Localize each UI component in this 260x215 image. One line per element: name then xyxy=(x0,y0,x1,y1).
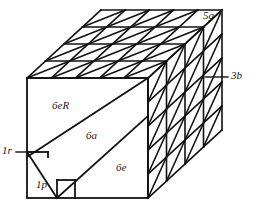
label-5g: 5g xyxy=(203,10,214,21)
diagram-canvas: 5g 3b 1r 1p 6eR 6a 6e xyxy=(0,0,260,215)
label-6eR: 6eR xyxy=(52,100,69,111)
right-face-mesh xyxy=(148,10,222,198)
label-3b: 3b xyxy=(231,70,242,81)
label-6e: 6e xyxy=(116,162,126,173)
front-face-corner-triangle xyxy=(27,152,75,198)
top-face-mesh xyxy=(27,10,222,78)
label-1p: 1p xyxy=(36,179,47,190)
label-1r: 1r xyxy=(2,145,12,156)
label-6a: 6a xyxy=(86,130,97,141)
